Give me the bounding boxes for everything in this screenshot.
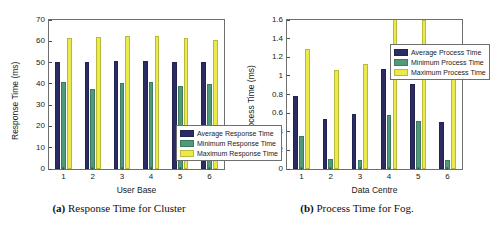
y-axis-tick: 1 [279, 72, 287, 80]
legend-label: Maximum Process Time [411, 69, 486, 76]
bar [393, 20, 398, 169]
x-axis-tick: 5 [178, 173, 182, 181]
legend-a: Average Response Time Minimum Response T… [176, 125, 282, 161]
tick-mark [418, 167, 419, 170]
bar [143, 61, 148, 169]
y-axis-tick: 1.2 [272, 53, 287, 61]
x-axis-tick: 4 [149, 173, 153, 181]
y-axis-label: Response Time (ms) [11, 62, 20, 140]
y-axis-tick: 30 [36, 101, 49, 109]
legend-item: Minimum Process Time [394, 57, 486, 67]
bar [299, 136, 304, 169]
x-axis-tick: 2 [329, 173, 333, 181]
x-axis-tick: 2 [91, 173, 95, 181]
tick-mark [49, 62, 52, 63]
x-axis-tick: 6 [445, 173, 449, 181]
tick-mark [287, 94, 290, 95]
tick-mark [287, 38, 290, 39]
bar-group-b [287, 20, 462, 169]
tick-mark [49, 105, 52, 106]
x-axis-tick: 3 [358, 173, 362, 181]
tick-mark [49, 169, 52, 170]
x-axis-label: Data Centre [286, 186, 463, 195]
bar [352, 114, 357, 169]
bar [85, 62, 90, 169]
tick-mark [209, 167, 210, 170]
tick-mark [63, 167, 64, 170]
bar [114, 61, 119, 169]
tick-mark [287, 57, 290, 58]
x-axis-label: User Base [48, 186, 225, 195]
tick-mark [49, 20, 52, 21]
tick-mark [389, 167, 390, 170]
legend-swatch-icon [394, 49, 408, 56]
bar [125, 36, 130, 169]
panel-caption: (b) Process Time for Fog. [238, 203, 476, 214]
x-axis-tick: 1 [299, 173, 303, 181]
legend-label: Average Response Time [197, 130, 274, 137]
y-axis-tick: 70 [36, 16, 49, 24]
tick-mark [287, 20, 290, 21]
legend-label: Average Process Time [411, 49, 481, 56]
tick-mark [287, 113, 290, 114]
x-axis-tick: 1 [61, 173, 65, 181]
y-axis-tick: 50 [36, 59, 49, 67]
tick-mark [49, 126, 52, 127]
bar [305, 49, 310, 169]
tick-mark [287, 75, 290, 76]
bar [416, 121, 421, 169]
tick-mark [121, 167, 122, 170]
bar [293, 96, 298, 169]
tick-mark [330, 167, 331, 170]
tick-mark [49, 83, 52, 84]
bar [55, 62, 60, 169]
bar [90, 89, 95, 169]
panel-process-time-for-fog: Process Time (ms) Average Process Time M… [238, 0, 476, 232]
tick-mark [359, 167, 360, 170]
legend-item: Maximum Response Time [180, 148, 278, 158]
x-axis-tick: 6 [207, 173, 211, 181]
bar [149, 82, 154, 169]
y-axis-tick: 1.4 [272, 35, 287, 43]
tick-mark [287, 131, 290, 132]
tick-mark [287, 150, 290, 151]
y-axis-tick: 0.6 [272, 109, 287, 117]
tick-mark [151, 167, 152, 170]
bar [61, 82, 66, 169]
legend-b: Average Process Time Minimum Process Tim… [390, 44, 490, 80]
plot-area-a: Average Response Time Minimum Response T… [48, 19, 225, 170]
tick-mark [49, 41, 52, 42]
bar [120, 83, 125, 169]
legend-swatch-icon [394, 59, 408, 66]
y-axis-tick: 60 [36, 37, 49, 45]
x-axis-tick: 4 [387, 173, 391, 181]
legend-item: Minimum Response Time [180, 138, 278, 148]
bar [67, 38, 72, 169]
tick-mark [301, 167, 302, 170]
legend-swatch-icon [180, 140, 194, 147]
tick-mark [180, 167, 181, 170]
legend-item: Maximum Process Time [394, 67, 486, 77]
caption-text: Response Time for Cluster [68, 202, 186, 214]
caption-tag: (b) [300, 202, 313, 214]
bar [363, 64, 368, 169]
bar [387, 115, 392, 169]
y-axis-tick: 0.8 [272, 91, 287, 99]
legend-swatch-icon [394, 69, 408, 76]
bar [422, 20, 427, 169]
caption-tag: (a) [52, 202, 65, 214]
bar [155, 36, 160, 169]
y-axis-tick: 10 [36, 144, 49, 152]
legend-item: Average Process Time [394, 47, 486, 57]
panel-response-time-for-cluster: Response Time (ms) Average Response Time… [0, 0, 238, 232]
x-axis-tick: 3 [120, 173, 124, 181]
legend-label: Minimum Response Time [197, 140, 276, 147]
bar [381, 69, 386, 169]
caption-text: Process Time for Fog. [317, 202, 414, 214]
legend-label: Maximum Response Time [197, 150, 278, 157]
y-axis-tick: 20 [36, 122, 49, 130]
bar [96, 37, 101, 169]
y-axis-tick: 40 [36, 80, 49, 88]
bar [451, 72, 456, 169]
